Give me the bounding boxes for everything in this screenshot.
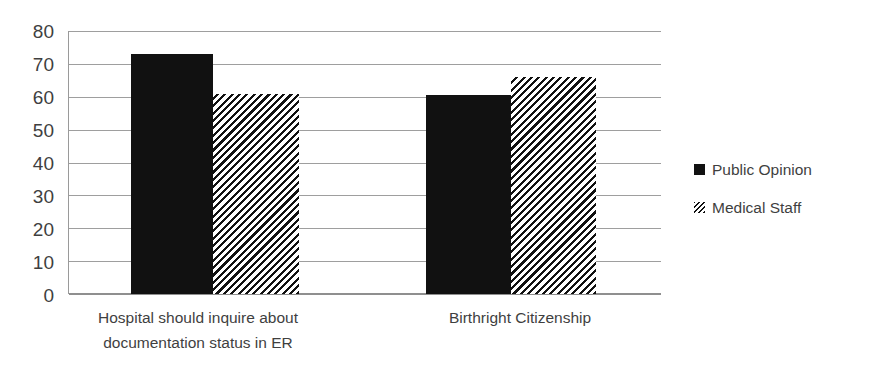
y-tick-label: 20 bbox=[33, 220, 54, 239]
category-label-hospital: Hospital should inquire about documentat… bbox=[68, 305, 328, 355]
y-tick-label: 60 bbox=[33, 88, 54, 107]
bar-chart: 80 70 60 50 40 30 20 10 0 Hospital shoul… bbox=[0, 0, 871, 379]
bar-public-opinion-hospital bbox=[131, 54, 213, 294]
bar-public-opinion-birthright bbox=[426, 95, 511, 294]
category-label-birthright: Birthright Citizenship bbox=[400, 305, 640, 330]
y-tick-label: 40 bbox=[33, 154, 54, 173]
legend-item-public-opinion: Public Opinion bbox=[694, 150, 869, 188]
hatched-square-icon bbox=[694, 202, 705, 213]
y-tick-label: 10 bbox=[33, 253, 54, 272]
legend-label-public-opinion: Public Opinion bbox=[712, 161, 812, 178]
bar-medical-staff-birthright bbox=[511, 77, 596, 294]
y-axis: 80 70 60 50 40 30 20 10 0 bbox=[0, 0, 62, 379]
legend-item-medical-staff: Medical Staff bbox=[694, 188, 869, 226]
legend: Public Opinion Medical Staff bbox=[694, 150, 869, 226]
y-tick-label: 0 bbox=[43, 286, 54, 305]
bar-medical-staff-hospital bbox=[213, 94, 299, 294]
solid-square-icon bbox=[694, 164, 705, 175]
y-tick-label: 80 bbox=[33, 22, 54, 41]
legend-label-medical-staff: Medical Staff bbox=[712, 199, 801, 216]
y-tick-label: 70 bbox=[33, 55, 54, 74]
y-tick-label: 50 bbox=[33, 121, 54, 140]
plot-area bbox=[68, 31, 660, 294]
gridline-80 bbox=[69, 31, 661, 32]
y-tick-label: 30 bbox=[33, 187, 54, 206]
